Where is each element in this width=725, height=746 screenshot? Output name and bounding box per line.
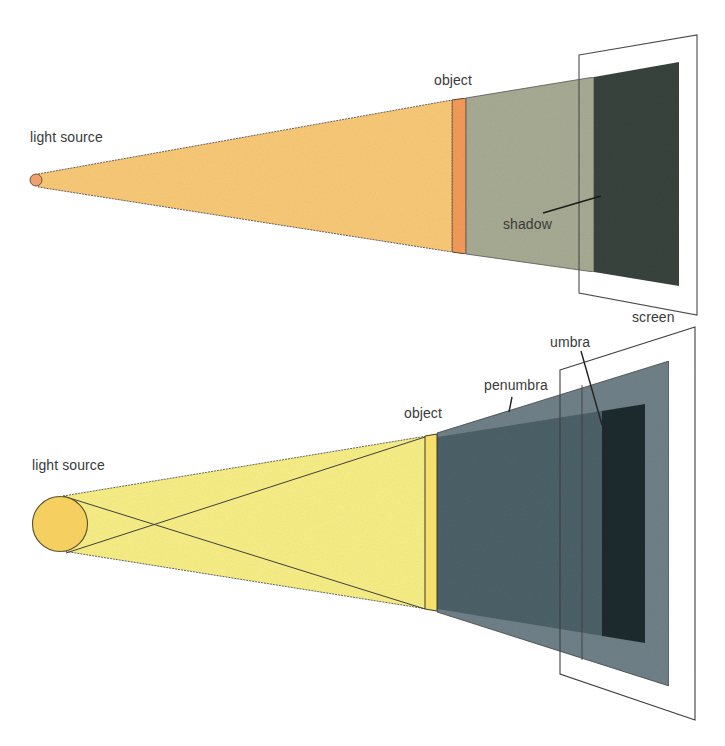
light-source-icon (30, 174, 42, 186)
object-strip (425, 434, 437, 611)
label-shadow: shadow (503, 216, 552, 232)
label-object-top: object (434, 72, 472, 88)
object-strip (452, 98, 466, 254)
label-object-bottom: object (404, 405, 442, 421)
label-umbra: umbra (550, 334, 590, 350)
shadow-beam (466, 77, 594, 272)
label-penumbra: penumbra (484, 377, 548, 393)
light-beam (63, 436, 427, 609)
shadow-diagram-figure: light source object shadow screen light … (0, 0, 725, 746)
umbra-region (602, 404, 645, 643)
shadow-on-screen (594, 62, 679, 286)
label-screen-top: screen (632, 309, 675, 325)
point-source-diagram (30, 35, 697, 315)
light-source-icon (33, 497, 88, 552)
light-beam (38, 100, 452, 252)
diagram-graphics (0, 0, 725, 746)
extended-source-diagram (33, 327, 696, 720)
label-light-source-top: light source (30, 129, 103, 145)
label-light-source-bottom: light source (32, 457, 105, 473)
